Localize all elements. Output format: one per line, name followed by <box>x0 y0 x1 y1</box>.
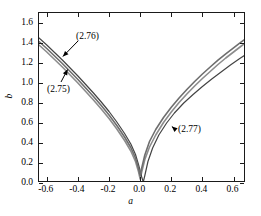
y-axis-tick <box>240 43 244 44</box>
plot-area <box>38 12 245 182</box>
y-axis-title: b <box>4 81 14 111</box>
figure-canvas: -0.6-0.4-0.20.00.20.40.60.00.20.40.60.81… <box>0 0 261 216</box>
y-tick-label: 0.0 <box>0 177 33 187</box>
y-axis-tick <box>240 63 244 64</box>
x-axis-tick <box>78 13 79 17</box>
x-axis-tick <box>78 177 79 181</box>
series-curve <box>39 38 244 181</box>
y-axis-tick <box>240 143 244 144</box>
y-tick-label: 0.6 <box>0 117 33 127</box>
y-axis-tick <box>39 163 43 164</box>
annotation-label-276: (2.76) <box>76 31 99 41</box>
x-axis-tick <box>109 177 110 181</box>
y-axis-tick <box>240 23 244 24</box>
x-axis-title: a <box>0 196 261 206</box>
x-axis-tick <box>140 13 141 17</box>
y-axis-tick <box>39 43 43 44</box>
x-axis-tick <box>234 177 235 181</box>
series-curve <box>39 43 244 180</box>
y-axis-tick <box>39 123 43 124</box>
x-axis-tick <box>47 13 48 17</box>
x-axis-tick <box>171 177 172 181</box>
x-tick-label: 0.6 <box>213 184 253 194</box>
series-curve <box>39 39 244 176</box>
x-axis-tick <box>109 13 110 17</box>
annotation-label-275: (2.75) <box>47 84 70 94</box>
y-tick-label: 0.2 <box>0 157 33 167</box>
x-axis-tick <box>202 177 203 181</box>
y-axis-tick <box>240 83 244 84</box>
x-axis-tick <box>234 13 235 17</box>
y-axis-tick <box>39 63 43 64</box>
y-axis-tick <box>39 83 43 84</box>
y-axis-tick <box>39 23 43 24</box>
y-axis-tick <box>39 103 43 104</box>
y-tick-label: 0.4 <box>0 137 33 147</box>
y-tick-label: 1.2 <box>0 57 33 67</box>
y-tick-label: 1.6 <box>0 17 33 27</box>
y-axis-tick <box>240 163 244 164</box>
y-axis-tick <box>39 143 43 144</box>
x-axis-tick <box>171 13 172 17</box>
x-axis-tick <box>47 177 48 181</box>
curve-layer <box>39 13 244 181</box>
y-axis-tick <box>240 123 244 124</box>
x-axis-tick <box>202 13 203 17</box>
x-axis-tick <box>140 177 141 181</box>
y-tick-label: 1.4 <box>0 37 33 47</box>
curve-svg <box>39 13 244 181</box>
annotation-label-277: (2.77) <box>178 124 201 134</box>
y-axis-tick <box>240 103 244 104</box>
